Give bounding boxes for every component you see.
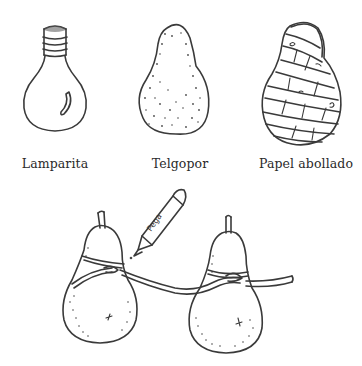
- light-bulb-icon: [24, 26, 87, 131]
- caption-telgopor: Telgopor: [152, 156, 209, 171]
- illustration: Pega Lamparita Telgopor Papel abollado: [0, 0, 362, 366]
- styrofoam-pear-icon: [139, 25, 209, 134]
- drawing-canvas: Pega: [0, 0, 362, 366]
- pen-label: Pega: [145, 212, 164, 233]
- caption-lamparita: Lamparita: [22, 156, 88, 171]
- glue-pen-icon: Pega: [130, 190, 186, 260]
- crumpled-paper-pear-icon: [262, 22, 341, 144]
- string-icon: [72, 256, 293, 294]
- caption-papel-abollado: Papel abollado: [259, 156, 353, 171]
